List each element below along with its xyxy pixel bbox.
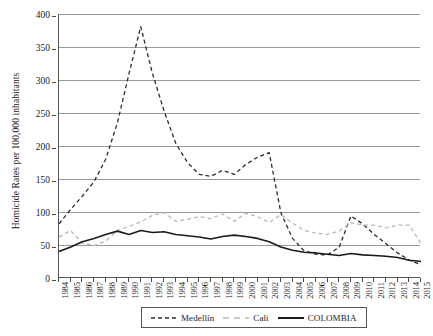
x-axis-tick-label: 1997 bbox=[213, 282, 222, 299]
y-axis-tick-mark bbox=[52, 82, 56, 83]
x-axis-tick-label: 1989 bbox=[120, 282, 129, 299]
x-axis-tick-label: 1991 bbox=[143, 282, 152, 299]
legend-swatch-icon bbox=[223, 314, 249, 322]
x-axis-tick-label: 2003 bbox=[283, 282, 292, 299]
x-axis-tick-label: 2005 bbox=[306, 282, 315, 299]
x-axis-tick-label: 2007 bbox=[330, 282, 339, 299]
legend-item: Medellín bbox=[151, 313, 214, 323]
x-axis-tick-label: 1998 bbox=[225, 282, 234, 299]
x-axis-tick-label: 1987 bbox=[96, 282, 105, 299]
x-axis-tick-label: 1986 bbox=[85, 282, 94, 299]
x-axis-tick-label: 1994 bbox=[178, 282, 187, 299]
legend-item: COLOMBIA bbox=[278, 313, 357, 323]
x-axis-tick-label: 2008 bbox=[342, 282, 351, 299]
y-axis-ticks: 050100150200250300350400 bbox=[22, 14, 56, 280]
series-lines bbox=[59, 14, 421, 278]
y-axis-tick-mark bbox=[52, 49, 56, 50]
x-axis-tick-label: 2004 bbox=[295, 282, 304, 299]
y-axis-tick-mark bbox=[52, 181, 56, 182]
series-line-colombia bbox=[59, 230, 421, 261]
chart-legend: MedellínCaliCOLOMBIA bbox=[141, 307, 367, 328]
x-axis-labels: 1984198519861987198819891990199119921993… bbox=[58, 282, 420, 308]
x-axis-tick-label: 1984 bbox=[61, 282, 70, 299]
y-axis-tick-label: 150 bbox=[20, 176, 50, 186]
x-axis-tick-label: 2002 bbox=[271, 282, 280, 299]
y-axis-tick-label: 100 bbox=[20, 209, 50, 219]
y-axis-tick-mark bbox=[52, 280, 56, 281]
x-axis-tick-label: 1990 bbox=[131, 282, 140, 299]
x-axis-tick-label: 2010 bbox=[365, 282, 374, 299]
x-axis-tick-label: 2000 bbox=[248, 282, 257, 299]
x-axis-tick-label: 1995 bbox=[190, 282, 199, 299]
y-axis-tick-label: 0 bbox=[20, 275, 50, 285]
y-axis-tick-label: 300 bbox=[20, 77, 50, 87]
x-axis-tick-label: 1996 bbox=[201, 282, 210, 299]
y-axis-tick-label: 50 bbox=[20, 242, 50, 252]
series-line-cali bbox=[59, 213, 421, 246]
x-axis-tick-label: 2012 bbox=[388, 282, 397, 299]
legend-label: Cali bbox=[253, 313, 268, 323]
x-axis-tick-label: 1999 bbox=[236, 282, 245, 299]
x-axis-tick-label: 2009 bbox=[353, 282, 362, 299]
x-axis-tick-label: 2006 bbox=[318, 282, 327, 299]
legend-label: COLOMBIA bbox=[308, 313, 357, 323]
x-axis-tick-label: 1985 bbox=[73, 282, 82, 299]
chart-figure: Homicide Rates per 100,000 inhabitants 0… bbox=[0, 0, 433, 336]
y-axis-tick-mark bbox=[52, 16, 56, 17]
x-axis-tick-label: 1992 bbox=[155, 282, 164, 299]
y-axis-tick-mark bbox=[52, 214, 56, 215]
x-axis-tick-label: 1993 bbox=[166, 282, 175, 299]
y-axis-tick-mark bbox=[52, 115, 56, 116]
x-axis-tick-label: 2001 bbox=[260, 282, 269, 299]
y-axis-tick-mark bbox=[52, 148, 56, 149]
legend-item: Cali bbox=[223, 313, 268, 323]
legend-swatch-icon bbox=[151, 314, 177, 322]
y-axis-tick-label: 400 bbox=[20, 11, 50, 21]
y-axis-tick-label: 250 bbox=[20, 110, 50, 120]
y-axis-tick-label: 350 bbox=[20, 44, 50, 54]
x-axis-tick-label: 1988 bbox=[108, 282, 117, 299]
legend-label: Medellín bbox=[181, 313, 214, 323]
y-axis-tick-mark bbox=[52, 247, 56, 248]
x-axis-tick-label: 2013 bbox=[400, 282, 409, 299]
x-axis-tick-label: 2014 bbox=[412, 282, 421, 299]
series-line-medelln bbox=[59, 27, 421, 265]
y-axis-tick-label: 200 bbox=[20, 143, 50, 153]
legend-swatch-icon bbox=[278, 314, 304, 322]
x-axis-tick-label: 2011 bbox=[377, 282, 386, 298]
plot-area bbox=[58, 14, 420, 278]
x-axis-tick-label: 2015 bbox=[423, 282, 432, 299]
